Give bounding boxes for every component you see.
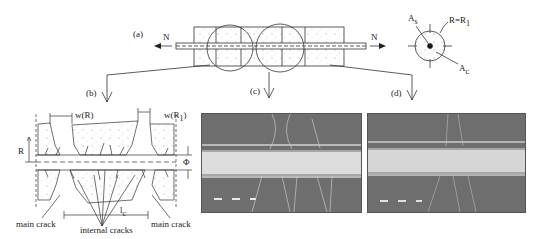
cross-section [408,22,458,68]
photo-d-cracks [368,114,525,212]
label-r: R [18,146,24,156]
panel-label-b: (b) [86,88,97,98]
photo-c [201,113,362,213]
photo-d [367,113,526,213]
label-main-crack-right: main crack [151,219,191,229]
label-internal-cracks: internal cracks [80,225,133,235]
photo-c-cracks [202,114,361,212]
label-w-r1: w(R1) [164,110,187,124]
force-label-right: N [371,32,378,42]
label-lc: lc [120,205,126,219]
figure: (a) N N As R=R1 Ac (b) (c) (d) w(R) w(R1… [0,0,542,239]
label-as: As [408,13,418,27]
label-main-crack-left: main crack [16,219,56,229]
force-label-left: N [163,32,170,42]
crack-detail-drawing [25,108,192,226]
panel-label-a: (a) [133,29,143,39]
tension-member [154,24,386,72]
label-ac: Ac [459,63,469,77]
panel-connectors [102,65,417,102]
label-r-r1: R=R1 [449,15,470,29]
label-w-r: w(R) [75,110,94,120]
label-phi: Φ [183,157,190,167]
panel-label-d: (d) [391,88,402,98]
panel-label-c: (c) [250,86,260,96]
